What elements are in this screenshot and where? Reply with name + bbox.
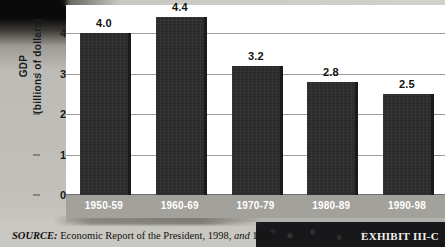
x-axis-tick-label: 1970-79 xyxy=(218,200,294,211)
source-caption: SOURCE: xyxy=(12,230,58,241)
y-axis-title-line1: GDP xyxy=(18,55,29,78)
y-axis-tick-label: 3 xyxy=(40,68,66,80)
y-axis-tick-label: 4 xyxy=(40,27,66,39)
source-note: SOURCE: Economic Report of the President… xyxy=(12,230,276,241)
bar-value-label: 2.8 xyxy=(293,66,369,78)
y-axis-tick-label: 0 xyxy=(40,189,66,201)
y-axis-tick-mark xyxy=(33,33,40,34)
bar-value-label: 4.4 xyxy=(142,1,218,13)
y-axis-tick-mark xyxy=(33,114,40,115)
y-axis-tick-mark xyxy=(33,195,40,196)
x-axis-tick-label: 1960-69 xyxy=(142,200,218,211)
bar xyxy=(80,33,128,195)
source-text-a: Economic Report of the President, 1998, xyxy=(60,230,231,241)
bar-value-label: 3.2 xyxy=(218,50,294,62)
x-axis-tick-label: 1980-89 xyxy=(293,200,369,211)
bar-value-label: 2.5 xyxy=(369,78,445,90)
exhibit-page: GDP (billions of dollars) 01234 4.04.43.… xyxy=(0,0,445,247)
bar xyxy=(307,82,355,195)
y-axis-tick-mark xyxy=(33,74,40,75)
x-axis-label-band: 1950-591960-691970-791980-891990-98 xyxy=(66,195,445,218)
bar-value-label: 4.0 xyxy=(66,17,142,29)
y-axis-tick-mark xyxy=(33,155,40,156)
bar xyxy=(383,94,431,195)
chart-card: 4.04.43.22.82.5 1950-591960-691970-79198… xyxy=(66,5,445,218)
bar xyxy=(232,66,280,195)
exhibit-label: EXHIBIT III-C xyxy=(361,230,439,242)
source-text-b: 1999. xyxy=(252,230,276,241)
y-axis-tick-label: 1 xyxy=(40,149,66,161)
source-text-emphasis: and xyxy=(234,230,250,241)
x-axis-tick-label: 1990-98 xyxy=(369,200,445,211)
y-axis-tick-label: 2 xyxy=(40,108,66,120)
bar xyxy=(156,17,204,195)
plot-area: 4.04.43.22.82.5 xyxy=(66,5,445,195)
x-axis-tick-label: 1950-59 xyxy=(66,200,142,211)
y-axis: 01234 xyxy=(30,5,66,195)
